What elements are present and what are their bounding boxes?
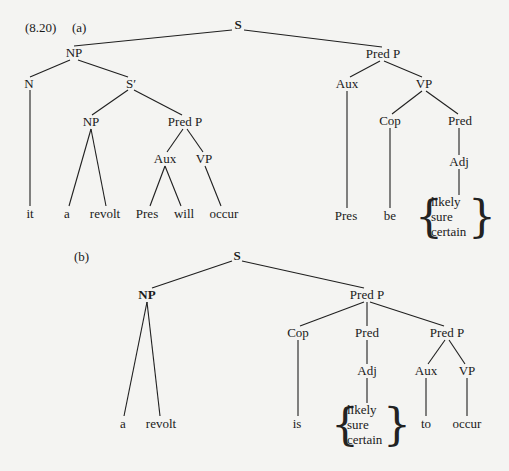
node-vp-b: VP <box>459 364 476 378</box>
node-pred-p: Pred P <box>366 47 400 61</box>
node-cop-b: Cop <box>287 326 309 340</box>
node-s-b: S <box>233 249 240 263</box>
node-vp-inner: VP <box>196 152 213 166</box>
terminal-is-b: is <box>293 417 302 431</box>
syntax-tree-figure: (8.20) (a) S NP N S′ NP Pred P Aux VP Pr… <box>0 0 509 471</box>
node-pred-p-inner: Pred P <box>168 115 202 129</box>
tree-a-label: (a) <box>72 21 86 35</box>
adj-option-certain: certain <box>431 225 466 239</box>
terminal-revolt-b: revolt <box>146 417 176 431</box>
node-np: NP <box>66 46 83 60</box>
node-pred-p-inner-b: Pred P <box>430 326 464 340</box>
node-aux-inner: Aux <box>154 152 176 166</box>
terminal-pres-inner: Pres <box>136 207 158 221</box>
node-adj-b: Adj <box>357 364 377 378</box>
terminal-to-b: to <box>421 417 431 431</box>
terminal-will: will <box>174 207 194 221</box>
node-vp: VP <box>416 77 433 91</box>
right-brace-icon-b: } <box>383 403 411 447</box>
node-cop: Cop <box>379 114 401 128</box>
terminal-occur: occur <box>210 207 239 221</box>
node-pred-b: Pred <box>355 326 379 340</box>
terminal-occur-b: occur <box>453 417 482 431</box>
adj-option-certain-b: certain <box>347 433 382 447</box>
terminal-pres: Pres <box>335 209 357 223</box>
terminal-a: a <box>64 207 70 221</box>
node-np-b: NP <box>138 288 155 302</box>
adj-option-likely: likely <box>431 195 461 209</box>
node-s-prime: S′ <box>126 77 136 91</box>
node-aux-b: Aux <box>415 364 437 378</box>
node-pred-p-b: Pred P <box>350 288 384 302</box>
terminal-be: be <box>384 209 396 223</box>
terminal-revolt: revolt <box>90 207 120 221</box>
node-pred: Pred <box>448 114 472 128</box>
adj-option-sure-b: sure <box>347 418 369 432</box>
node-aux: Aux <box>336 77 358 91</box>
right-brace-icon: } <box>468 195 496 239</box>
adj-option-sure: sure <box>431 210 453 224</box>
node-n: N <box>24 77 33 91</box>
figure-number: (8.20) <box>25 21 56 35</box>
adj-option-likely-b: likely <box>347 403 377 417</box>
node-s: S <box>234 18 241 32</box>
terminal-it: it <box>26 207 33 221</box>
tree-b-label: (b) <box>74 250 89 264</box>
node-adj: Adj <box>449 155 469 169</box>
node-np-inner: NP <box>83 115 100 129</box>
terminal-a-b: a <box>120 417 126 431</box>
